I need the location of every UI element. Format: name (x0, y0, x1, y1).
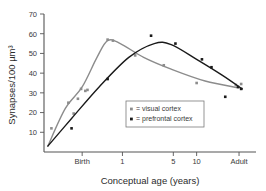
data-point (237, 86, 240, 89)
data-point (174, 42, 177, 45)
data-point (224, 96, 227, 99)
data-point (162, 64, 165, 67)
chart-figure: 10203040506070 Birth1510Adult Synapses/1… (0, 0, 266, 191)
data-point (210, 66, 213, 69)
legend-label: = prefrontal cortex (136, 115, 193, 123)
chart-legend: = visual cortex= prefrontal cortex (126, 101, 204, 127)
legend-marker (130, 108, 133, 111)
data-point (150, 34, 153, 37)
data-point (112, 39, 115, 42)
y-tick-label: 10 (29, 128, 37, 137)
x-tick-label: 1 (120, 157, 124, 166)
data-point (80, 88, 83, 91)
legend-label: = visual cortex (136, 105, 181, 112)
data-point (240, 88, 243, 91)
data-point (201, 58, 204, 61)
data-point (134, 54, 137, 57)
x-tick-label: Adult (230, 157, 248, 166)
y-tick-label: 70 (29, 10, 37, 19)
y-tick-label: 40 (29, 69, 37, 78)
y-tick-label: 20 (29, 108, 37, 117)
synapse-density-line-chart: 10203040506070 Birth1510Adult Synapses/1… (0, 0, 266, 191)
data-point (240, 83, 243, 86)
data-point (50, 127, 53, 130)
y-axis-title: Synapses/100 µm³ (6, 45, 17, 124)
x-tick-label: 5 (171, 157, 175, 166)
y-tick-label: 50 (29, 49, 37, 58)
y-tick-label: 30 (29, 89, 37, 98)
legend-marker (130, 118, 133, 121)
data-point (67, 101, 70, 104)
x-tick-label: 10 (192, 157, 200, 166)
x-tick-label: Birth (74, 157, 89, 166)
data-point (77, 97, 80, 100)
data-point (195, 82, 198, 85)
data-point (106, 78, 109, 81)
x-axis-title: Conceptual age (years) (101, 175, 200, 186)
data-point (106, 38, 109, 41)
data-point (70, 127, 73, 130)
y-tick-label: 60 (29, 30, 37, 39)
data-point (86, 89, 89, 92)
